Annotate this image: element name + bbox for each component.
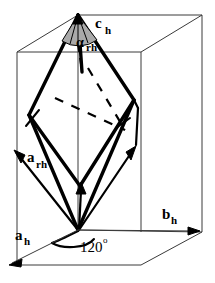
hidden-edge-left-diagonal bbox=[55, 98, 125, 130]
rhombohedron-in-hexagonal-prism-figure: c h α rh a rh a h b h 120 o bbox=[0, 0, 215, 283]
label-alpha-rh-symbol: α bbox=[76, 35, 84, 50]
label-angle-120-value: 120 bbox=[80, 239, 103, 255]
b-h-shaft bbox=[78, 230, 196, 231]
a-h-arrowhead bbox=[9, 259, 22, 267]
prism-top-right-edge bbox=[141, 15, 202, 52]
label-alpha-rh-subscript: rh bbox=[86, 41, 97, 53]
label-a-rh-subscript: rh bbox=[36, 158, 47, 170]
label-angle-120-unit: o bbox=[103, 235, 108, 245]
label-b-hex-symbol: b bbox=[162, 206, 170, 222]
label-a-rh-symbol: a bbox=[27, 149, 35, 165]
rhombo-edge-right-to-bottom bbox=[78, 100, 134, 230]
label-a-hex-symbol: a bbox=[15, 227, 23, 243]
rhombo-right-vertex-notch-a bbox=[134, 100, 138, 108]
hexagonal-axis-arrows bbox=[9, 13, 200, 267]
label-b-hex-subscript: h bbox=[171, 214, 177, 226]
label-c-hex-symbol: c bbox=[95, 15, 102, 31]
label-a-hex-subscript: h bbox=[24, 235, 30, 247]
label-c-hex-subscript: h bbox=[105, 24, 111, 36]
rhombohedron-hidden-edges bbox=[55, 46, 125, 130]
rhombo-right-vertex-notch-b bbox=[136, 108, 138, 145]
prism-bottom-right-edge bbox=[141, 232, 202, 265]
a-rh-left-shaft bbox=[16, 152, 78, 230]
